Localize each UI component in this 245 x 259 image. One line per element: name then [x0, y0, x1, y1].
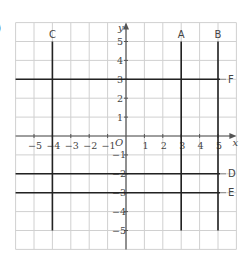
coordinate-graph: xyO−5−4−3−2−11234554321−1−2−3−4−5ABCDEF [0, 0, 245, 259]
x-tick-label: −5 [28, 140, 42, 151]
y-axis-label: y [117, 22, 124, 33]
y-tick-label: 2 [117, 93, 123, 104]
x-tick-label: −4 [46, 140, 60, 151]
line-label-e: E [228, 187, 234, 198]
y-tick-label: −5 [112, 225, 126, 236]
x-tick-label: 3 [179, 140, 185, 151]
x-tick-label: 5 [216, 140, 222, 151]
origin-label: O [115, 137, 123, 148]
x-tick-label: 1 [142, 140, 148, 151]
line-label-d: D [228, 168, 236, 179]
y-tick-label: 5 [117, 36, 123, 47]
line-label-a: A [178, 29, 185, 40]
y-tick-label: 4 [117, 55, 123, 66]
line-label-b: B [215, 29, 222, 40]
x-tick-label: −2 [83, 140, 97, 151]
y-tick-label: −1 [112, 149, 126, 160]
y-axis-arrow-icon [123, 23, 129, 30]
x-axis-label: x [232, 137, 238, 148]
line-label-c: C [49, 29, 56, 40]
y-tick-label: 1 [117, 112, 123, 123]
x-tick-label: 2 [161, 140, 167, 151]
x-tick-label: 4 [198, 140, 204, 151]
line-label-f: F [228, 74, 234, 85]
x-tick-label: −3 [65, 140, 79, 151]
y-tick-label: −4 [112, 206, 126, 217]
